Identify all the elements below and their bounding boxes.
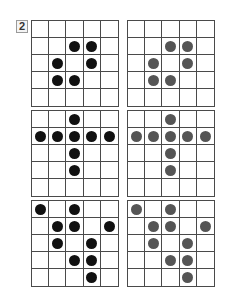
grid-cell bbox=[32, 21, 49, 38]
dot-icon bbox=[104, 221, 115, 232]
grid-cell bbox=[101, 201, 118, 218]
grid-cell bbox=[66, 218, 83, 235]
dot-icon bbox=[86, 41, 97, 52]
grid-cell bbox=[197, 89, 214, 106]
grid-cell bbox=[145, 235, 162, 252]
grid-cell bbox=[32, 252, 49, 269]
dot-icon bbox=[52, 131, 63, 142]
grid-cell bbox=[180, 55, 197, 72]
grid-cell bbox=[84, 128, 101, 145]
grid-cell bbox=[180, 89, 197, 106]
dot-icon bbox=[148, 238, 159, 249]
grid-cell bbox=[101, 38, 118, 55]
grid-cell bbox=[32, 128, 49, 145]
grid-cell bbox=[162, 235, 179, 252]
grid-cell bbox=[197, 201, 214, 218]
dot-icon bbox=[86, 131, 97, 142]
grid-cell bbox=[145, 179, 162, 196]
grid-cell bbox=[180, 201, 197, 218]
grid-cell bbox=[197, 111, 214, 128]
dot-icon bbox=[148, 58, 159, 69]
dot-icon bbox=[182, 41, 193, 52]
grid-cell bbox=[128, 235, 145, 252]
grid-cell bbox=[145, 218, 162, 235]
dot-icon bbox=[69, 41, 80, 52]
grid-2-left bbox=[31, 110, 119, 197]
grid-cell bbox=[180, 162, 197, 179]
dot-icon bbox=[69, 131, 80, 142]
dot-icon bbox=[131, 204, 142, 215]
dot-icon bbox=[165, 204, 176, 215]
dot-icon bbox=[182, 131, 193, 142]
grid-cell bbox=[128, 201, 145, 218]
grid-cell bbox=[32, 179, 49, 196]
grid-cell bbox=[32, 235, 49, 252]
dot-icon bbox=[165, 221, 176, 232]
grid-cell bbox=[162, 111, 179, 128]
grid-cell bbox=[101, 89, 118, 106]
grid-cell bbox=[84, 38, 101, 55]
dot-icon bbox=[69, 255, 80, 266]
dot-icon bbox=[69, 165, 80, 176]
grid-cell bbox=[66, 55, 83, 72]
grid-cell bbox=[101, 218, 118, 235]
grid-3-left bbox=[31, 200, 119, 287]
grid-cell bbox=[145, 269, 162, 286]
grid-cell bbox=[101, 252, 118, 269]
grid-cell bbox=[49, 201, 66, 218]
grid-cell bbox=[101, 235, 118, 252]
grid-cell bbox=[197, 179, 214, 196]
grid-cell bbox=[145, 201, 162, 218]
grid-cell bbox=[145, 145, 162, 162]
grid-cell bbox=[49, 38, 66, 55]
grid-cell bbox=[66, 201, 83, 218]
grid-cell bbox=[128, 55, 145, 72]
grid-cell bbox=[84, 89, 101, 106]
grid-cell bbox=[162, 179, 179, 196]
grid-cell bbox=[49, 145, 66, 162]
grid-cell bbox=[49, 269, 66, 286]
grid-cell bbox=[101, 21, 118, 38]
grid-cell bbox=[66, 252, 83, 269]
grid-cell bbox=[180, 269, 197, 286]
grid-cell bbox=[49, 111, 66, 128]
grid-cell bbox=[197, 269, 214, 286]
grid-cell bbox=[101, 269, 118, 286]
dot-icon bbox=[200, 131, 211, 142]
grid-cell bbox=[66, 128, 83, 145]
grid-cell bbox=[197, 128, 214, 145]
grid-cell bbox=[101, 162, 118, 179]
grid-cell bbox=[101, 128, 118, 145]
grid-3-right bbox=[127, 200, 215, 287]
grid-cell bbox=[162, 55, 179, 72]
dot-icon bbox=[52, 221, 63, 232]
grid-cell bbox=[32, 201, 49, 218]
grid-cell bbox=[180, 111, 197, 128]
dot-icon bbox=[69, 204, 80, 215]
dot-icon bbox=[69, 221, 80, 232]
grid-cell bbox=[128, 111, 145, 128]
dot-icon bbox=[35, 204, 46, 215]
dot-icon bbox=[35, 131, 46, 142]
grid-cell bbox=[101, 111, 118, 128]
dot-icon bbox=[148, 221, 159, 232]
grid-cell bbox=[84, 201, 101, 218]
grid-cell bbox=[84, 55, 101, 72]
grid-cell bbox=[145, 72, 162, 89]
grid-cell bbox=[49, 89, 66, 106]
grid-cell bbox=[197, 145, 214, 162]
grid-cell bbox=[84, 218, 101, 235]
grid-cell bbox=[66, 72, 83, 89]
dot-icon bbox=[86, 255, 97, 266]
dot-icon bbox=[69, 75, 80, 86]
dot-icon bbox=[165, 114, 176, 125]
grid-cell bbox=[197, 162, 214, 179]
grid-cell bbox=[101, 179, 118, 196]
dot-icon bbox=[182, 58, 193, 69]
grid-cell bbox=[84, 179, 101, 196]
grid-cell bbox=[32, 38, 49, 55]
grid-cell bbox=[66, 179, 83, 196]
grid-cell bbox=[145, 55, 162, 72]
grid-cell bbox=[180, 218, 197, 235]
grid-cell bbox=[128, 72, 145, 89]
